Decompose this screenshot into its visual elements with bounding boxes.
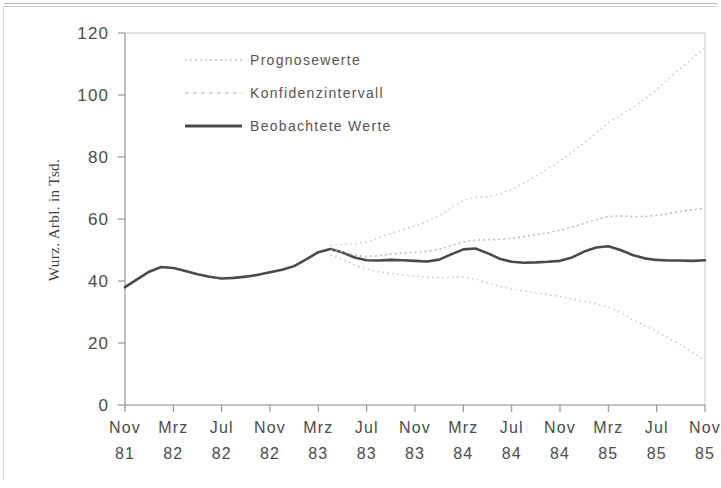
x-tick-label-month: Mrz xyxy=(158,419,188,436)
y-tick-label: 20 xyxy=(88,334,109,353)
x-tick-label-month: Nov xyxy=(254,419,286,436)
x-tick-label-month: Mrz xyxy=(303,419,333,436)
x-tick-label-month: Jul xyxy=(210,419,234,436)
x-tick-label-month: Jul xyxy=(355,419,379,436)
series-path xyxy=(330,255,705,361)
x-tick-label-month: Mrz xyxy=(593,419,623,436)
x-tick-label-month: Jul xyxy=(500,419,524,436)
x-axis: Nov81Mrz82Jul82Nov82Mrz83Jul83Nov83Mrz84… xyxy=(109,405,721,462)
line-chart: 020406080100120 Nov81Mrz82Jul82Nov82Mrz8… xyxy=(0,0,721,488)
y-tick-label: 40 xyxy=(88,272,109,291)
y-tick-label: 0 xyxy=(98,396,109,415)
x-tick-label-year: 83 xyxy=(308,445,328,462)
x-tick-label-year: 84 xyxy=(550,445,570,462)
y-tick-label: 120 xyxy=(77,24,109,43)
data-series xyxy=(125,48,705,361)
x-tick-label-month: Jul xyxy=(645,419,669,436)
legend-label: Prognosewerte xyxy=(250,52,361,68)
x-tick-label-month: Nov xyxy=(109,419,141,436)
x-tick-label-year: 85 xyxy=(598,445,618,462)
y-axis-title: Wurz. Arbl. in Tsd. xyxy=(46,159,62,281)
x-tick-label-year: 84 xyxy=(502,445,522,462)
y-tick-label: 60 xyxy=(88,210,109,229)
x-tick-label-year: 83 xyxy=(405,445,425,462)
chart-legend: PrognosewerteKonfidenzintervallBeobachte… xyxy=(185,52,392,134)
plot-frame xyxy=(125,33,705,405)
x-tick-label-year: 82 xyxy=(260,445,280,462)
x-tick-label-month: Nov xyxy=(544,419,576,436)
x-tick-label-year: 83 xyxy=(357,445,377,462)
series-path xyxy=(330,208,705,256)
x-tick-label-year: 82 xyxy=(212,445,232,462)
legend-label: Beobachtete Werte xyxy=(250,118,392,134)
y-tick-label: 100 xyxy=(77,86,109,105)
legend-label: Konfidenzintervall xyxy=(250,85,384,101)
x-tick-label-month: Nov xyxy=(399,419,431,436)
x-tick-label-month: Nov xyxy=(689,419,721,436)
chart-figure: 020406080100120 Nov81Mrz82Jul82Nov82Mrz8… xyxy=(0,0,721,488)
x-tick-label-month: Mrz xyxy=(448,419,478,436)
series-path xyxy=(330,48,705,245)
x-tick-label-year: 84 xyxy=(453,445,473,462)
x-tick-label-year: 85 xyxy=(695,445,715,462)
x-tick-label-year: 81 xyxy=(115,445,135,462)
x-tick-label-year: 82 xyxy=(163,445,183,462)
x-tick-label-year: 85 xyxy=(647,445,667,462)
y-tick-label: 80 xyxy=(88,148,109,167)
y-axis: 020406080100120 xyxy=(77,24,125,415)
